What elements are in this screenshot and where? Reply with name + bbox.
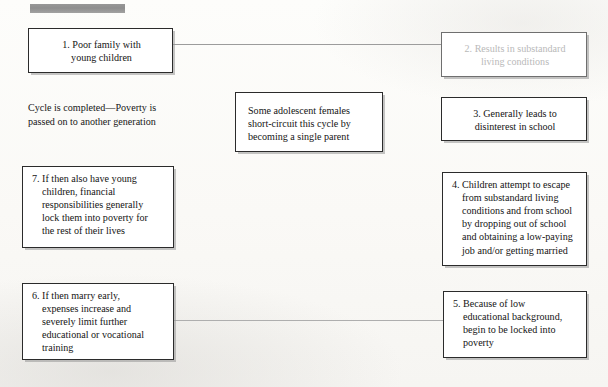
node-5-line-3: begin to be locked into <box>453 323 579 336</box>
node-1-line-1: 1. Poor family with <box>38 38 165 51</box>
node-6-marry-early[interactable]: 6. If then marry early, expenses increas… <box>22 283 174 360</box>
node-7-line-1: 7. If then also have young <box>32 172 166 185</box>
node-6-line-4: educational or vocational <box>32 328 166 341</box>
node-6-line-2: expenses increase and <box>32 302 166 315</box>
poverty-cycle-diagram: 1. Poor family with young children 2. Re… <box>0 0 608 387</box>
text-cycle-completed: Cycle is completed—Poverty is passed on … <box>28 101 218 129</box>
node-aside-line-1: Some adolescent females <box>248 104 372 117</box>
node-4-line-3: conditions and from school <box>452 204 579 217</box>
node-1-line-2: young children <box>38 51 165 64</box>
node-6-line-3: severely limit further <box>32 315 166 328</box>
node-6-line-5: training <box>32 341 166 354</box>
connector-node1-to-node2 <box>173 44 441 45</box>
node-1-poor-family[interactable]: 1. Poor family with young children <box>28 28 173 73</box>
node-7-line-5: the rest of their lives <box>32 224 166 237</box>
node-5-line-4: poverty <box>453 336 579 349</box>
node-6-line-1: 6. If then marry early, <box>32 289 166 302</box>
node-7-line-3: responsibilities generally <box>32 198 166 211</box>
node-aside-line-2: short-circuit this cycle by <box>248 117 372 130</box>
node-4-line-1: 4. Children attempt to escape <box>452 178 579 191</box>
node-4-line-5: and obtaining a low-paying <box>452 230 579 243</box>
node-4-line-4: by dropping out of school <box>452 217 579 230</box>
redacted-title-bar <box>30 4 125 13</box>
node-2-line-2: living conditions <box>451 55 579 68</box>
text-cycle-line-2: passed on to another generation <box>28 115 218 129</box>
node-4-line-2: from substandard living <box>452 191 579 204</box>
node-7-young-children-financial[interactable]: 7. If then also have young children, fin… <box>22 166 174 248</box>
node-3-line-1: 3. Generally leads to <box>451 107 579 120</box>
node-7-line-4: lock them into poverty for <box>32 211 166 224</box>
node-2-line-1: 2. Results in substandard <box>451 42 579 55</box>
node-4-children-attempt-escape[interactable]: 4. Children attempt to escape from subst… <box>442 172 587 266</box>
node-3-disinterest-in-school[interactable]: 3. Generally leads to disinterest in sch… <box>441 97 587 141</box>
node-2-substandard-living[interactable]: 2. Results in substandard living conditi… <box>441 32 587 77</box>
node-aside-adolescent-females[interactable]: Some adolescent females short-circuit th… <box>235 92 383 152</box>
node-5-line-2: educational background, <box>453 310 579 323</box>
node-7-line-2: children, financial <box>32 185 166 198</box>
node-4-line-6: job and/or getting married <box>452 244 579 257</box>
node-5-locked-into-poverty[interactable]: 5. Because of low educational background… <box>443 291 587 358</box>
text-cycle-line-1: Cycle is completed—Poverty is <box>28 101 218 115</box>
node-aside-line-3: becoming a single parent <box>248 130 372 143</box>
connector-node6-to-node5 <box>174 320 443 321</box>
node-5-line-1: 5. Because of low <box>453 297 579 310</box>
node-3-line-2: disinterest in school <box>451 120 579 133</box>
